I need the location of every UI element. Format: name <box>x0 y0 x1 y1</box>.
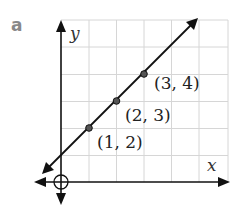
point-1-2 <box>86 125 93 132</box>
x-axis-label: x <box>207 155 217 175</box>
point-3-4 <box>141 71 148 78</box>
grid <box>61 20 228 182</box>
point-label-1-2: (1, 2) <box>97 132 143 152</box>
point-2-3 <box>113 98 120 105</box>
x-axis <box>34 177 230 187</box>
y-axis <box>56 20 66 205</box>
point-label-3-4: (3, 4) <box>154 73 200 93</box>
point-label-2-3: (2, 3) <box>125 105 171 125</box>
coordinate-plane: (1, 2) (2, 3) (3, 4) y x <box>0 0 243 219</box>
y-axis-label: y <box>69 23 80 43</box>
